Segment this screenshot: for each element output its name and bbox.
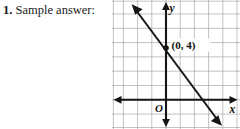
point-coordinate-label: (0, 4) xyxy=(172,39,196,52)
coordinate-graph: y x O (0, 4) xyxy=(112,0,240,129)
x-axis xyxy=(114,96,238,104)
line-lower-right-arrowhead xyxy=(211,115,222,126)
y-axis-down-arrowhead xyxy=(162,119,170,127)
y-axis xyxy=(162,2,170,127)
x-axis-left-arrowhead xyxy=(114,96,122,104)
answer-number: 1. xyxy=(3,3,12,17)
x-axis-label: x xyxy=(229,103,236,115)
answer-label: Sample answer: xyxy=(16,3,96,17)
line-upper-left-arrowhead xyxy=(132,4,143,15)
y-intercept-point-marker xyxy=(163,45,169,51)
answer-text: 1. Sample answer: xyxy=(3,3,111,18)
y-axis-label: y xyxy=(168,2,176,15)
worksheet-answer-figure: 1. Sample answer: xyxy=(0,0,240,129)
origin-label: O xyxy=(155,102,163,114)
